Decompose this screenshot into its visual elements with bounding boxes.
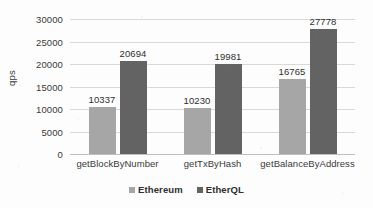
y-axis: qps 050001000015000200002500030000 (0, 0, 70, 208)
bar-value-label: 19981 (215, 51, 242, 62)
bar-ethereum-getBlockByNumber[interactable]: 10337 (89, 107, 116, 154)
bar-etherql-getBlockByNumber[interactable]: 20694 (120, 61, 147, 154)
legend-swatch-icon (197, 187, 203, 193)
legend-label: EtherQL (206, 184, 244, 195)
bar-group: 1033720694 (89, 19, 147, 154)
category-label-getTxByHash: getTxByHash (184, 158, 242, 169)
bar-value-label: 10230 (184, 95, 211, 106)
x-axis-category-labels: getBlockByNumbergetTxByHashgetBalanceByA… (70, 158, 355, 174)
y-tick-label: 25000 (36, 36, 63, 47)
bar-value-label: 27778 (310, 16, 337, 27)
bar-value-label: 16765 (279, 66, 306, 77)
bar-etherql-getTxByHash[interactable]: 19981 (215, 64, 242, 154)
y-tick-label: 0 (58, 149, 63, 160)
legend-label: Ethereum (138, 184, 183, 195)
y-tick-label: 5000 (41, 126, 63, 137)
legend: EthereumEtherQL (0, 184, 373, 195)
axis-baseline (70, 154, 355, 155)
category-label-getBalanceByAddress: getBalanceByAddress (260, 158, 354, 169)
y-tick-label: 15000 (36, 81, 63, 92)
bar-value-label: 10337 (89, 94, 116, 105)
bar-group: 1023019981 (184, 19, 242, 154)
bar-ethereum-getBalanceByAddress[interactable]: 16765 (279, 79, 306, 154)
bar-etherql-getBalanceByAddress[interactable]: 27778 (310, 29, 337, 154)
y-tick-label: 10000 (36, 104, 63, 115)
bar-value-label: 20694 (120, 48, 147, 59)
legend-swatch-icon (129, 187, 135, 193)
legend-entry-etherql[interactable]: EtherQL (197, 184, 244, 195)
bar-group: 1676527778 (279, 19, 337, 154)
legend-entry-ethereum[interactable]: Ethereum (129, 184, 183, 195)
y-tick-label: 30000 (36, 14, 63, 25)
plot-area: 103372069410230199811676527778 (70, 19, 355, 154)
bar-ethereum-getTxByHash[interactable]: 10230 (184, 108, 211, 154)
bar-chart-figure: qps 050001000015000200002500030000 10337… (0, 0, 373, 208)
category-label-getBlockByNumber: getBlockByNumber (76, 158, 158, 169)
y-axis-title: qps (6, 70, 17, 86)
y-tick-label: 20000 (36, 59, 63, 70)
